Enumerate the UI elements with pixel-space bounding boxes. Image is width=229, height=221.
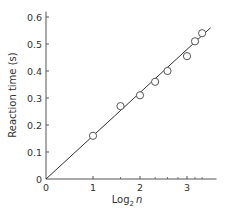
fit-line-path bbox=[46, 28, 211, 179]
x-tick-label: 3 bbox=[184, 182, 190, 193]
data-point bbox=[136, 92, 143, 99]
y-tick-label: 0 bbox=[36, 174, 42, 185]
reaction-time-chart: 00.10.20.30.40.50.60123 Reaction time (s… bbox=[0, 0, 229, 221]
x-tick-label: 2 bbox=[137, 182, 143, 193]
fit-line bbox=[46, 28, 211, 179]
y-tick-label: 0.4 bbox=[27, 66, 42, 77]
data-point bbox=[89, 132, 96, 139]
x-axis-label-subscript: 2 bbox=[130, 200, 134, 208]
y-tick-label: 0.5 bbox=[27, 39, 42, 50]
data-point bbox=[183, 53, 190, 60]
data-point bbox=[191, 38, 198, 45]
x-tick-label: 1 bbox=[90, 182, 96, 193]
y-tick-label: 0.2 bbox=[27, 120, 42, 131]
x-tick-label: 0 bbox=[43, 182, 49, 193]
x-axis-label-base: Log bbox=[112, 194, 130, 205]
y-tick-label: 0.6 bbox=[27, 12, 42, 23]
x-axis-label-var: n bbox=[136, 194, 142, 205]
data-point bbox=[199, 30, 206, 37]
y-axis-label: Reaction time (s) bbox=[7, 52, 18, 137]
data-point bbox=[117, 103, 124, 110]
data-point bbox=[164, 67, 171, 74]
x-axis-label: Log2n bbox=[112, 194, 143, 208]
data-point bbox=[152, 78, 159, 85]
y-tick-label: 0.1 bbox=[27, 147, 42, 158]
y-tick-label: 0.3 bbox=[27, 93, 42, 104]
